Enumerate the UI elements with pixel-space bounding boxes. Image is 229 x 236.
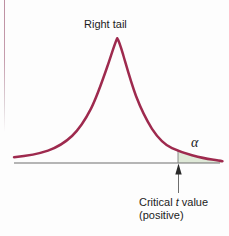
critical-value-label-suffix: value xyxy=(179,196,208,208)
critical-value-arrowhead-icon xyxy=(175,164,181,175)
right-tail-distribution-figure: Right tail α Critical t value (positive) xyxy=(0,0,229,236)
critical-value-label-line2: (positive) xyxy=(139,209,184,222)
critical-value-label-prefix: Critical xyxy=(139,196,176,208)
alpha-symbol-label: α xyxy=(191,136,198,150)
chart-title: Right tail xyxy=(84,18,127,31)
critical-value-label-line1: Critical t value xyxy=(139,196,208,209)
